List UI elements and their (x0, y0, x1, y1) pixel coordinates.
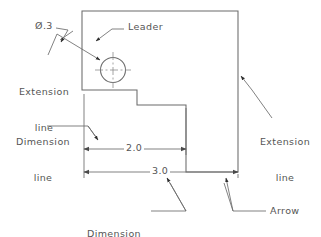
leader-label-line (96, 29, 124, 41)
dimension-line-label: Dimension line (7, 112, 79, 208)
extension-line-left-label-line1: Extension (8, 86, 80, 98)
extension-line-right-label-line1: Extension (251, 136, 319, 148)
leader-extension-line-left (48, 34, 57, 55)
extension-line-right-label-line2: line (251, 172, 319, 184)
dimension-value-3-0: 3.0 (150, 165, 170, 176)
dimension-value-2-0: 2.0 (124, 142, 144, 153)
part-outline (82, 11, 238, 172)
dimension-line-label-line1: Dimension (7, 136, 79, 148)
leader-label: Leader (128, 21, 163, 33)
leader-dimension-text (151, 178, 186, 211)
arrow-label: Arrow (270, 205, 300, 217)
technical-drawing-canvas: Ø.3 Leader Extension line Dimension line… (0, 0, 321, 237)
dimension-text-label: Dimension text (78, 204, 150, 237)
hole-center-marks (95, 52, 131, 88)
hole-diameter-label: Ø.3 (35, 20, 53, 32)
dimension-text-label-line1: Dimension (78, 228, 150, 237)
leader-callout-pointer (57, 34, 100, 60)
dimension-line-label-line2: line (7, 172, 79, 184)
extension-line-right-label: Extension line (251, 112, 319, 208)
